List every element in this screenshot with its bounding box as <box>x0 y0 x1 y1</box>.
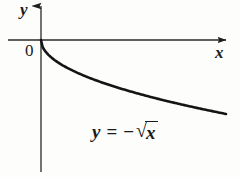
equation-lhs: y <box>92 122 100 141</box>
x-axis-label: x <box>215 44 224 61</box>
curve-negative-sqrt-x <box>41 40 226 114</box>
y-axis-label: y <box>20 1 28 18</box>
radical-group: √ x <box>136 121 157 142</box>
equation-equals-sign: = <box>106 122 117 141</box>
equation-annotation: y = − √ x <box>92 121 158 142</box>
equation-radicand: x <box>145 121 158 142</box>
origin-label: 0 <box>25 42 34 59</box>
equation-minus-sign: − <box>123 122 134 141</box>
function-graph-figure: y x 0 y = − √ x <box>0 0 240 177</box>
plot-canvas <box>0 0 240 177</box>
